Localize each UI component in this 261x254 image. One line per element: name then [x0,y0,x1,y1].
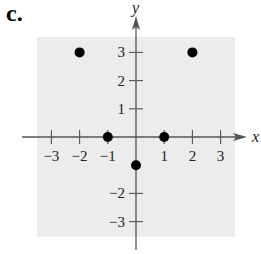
data-point [187,47,197,57]
y-tick-label: 3 [118,44,126,60]
coordinate-plot: xy −3−2−1123−3−2123 [0,0,261,254]
y-tick-label: −3 [109,214,125,230]
x-tick-label: 1 [160,148,168,164]
x-tick-label: −3 [43,148,59,164]
y-axis-label: y [130,0,140,17]
x-axis-label: x [251,128,259,145]
y-tick-label: −2 [109,185,125,201]
y-tick-label: 1 [118,101,126,117]
x-tick-label: 3 [217,148,225,164]
data-point [131,160,141,170]
x-tick-label: −2 [72,148,88,164]
x-tick-label: −1 [100,148,116,164]
data-point [75,47,85,57]
y-tick-label: 2 [118,73,126,89]
data-point [159,132,169,142]
data-point [103,132,113,142]
x-tick-label: 2 [189,148,197,164]
